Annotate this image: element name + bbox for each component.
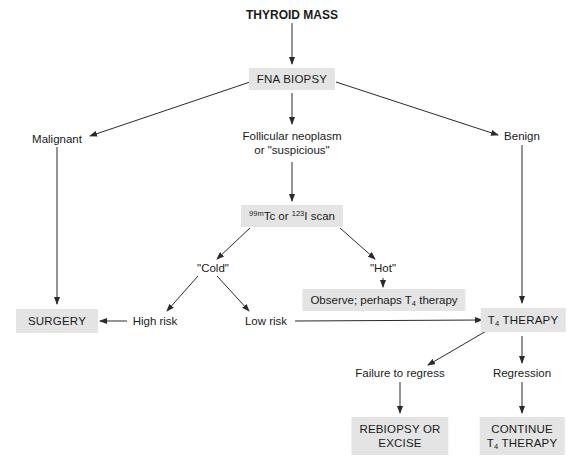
regression-label: Regression [493,366,551,380]
surgery-box: SURGERY [16,309,98,333]
rebiopsy-line2: EXCISE [359,436,440,450]
scan-isotope1: Tc or [264,210,292,222]
rebiopsy-excise-box: REBIOPSY OR EXCISE [351,417,448,455]
edge-scan-to-hot [340,228,375,259]
t4-therapy-box: T4 THERAPY [481,308,566,332]
t4-text-post: THERAPY [499,314,558,326]
high-risk-label: High risk [133,314,178,328]
continue-line1: CONTINUE [487,422,558,436]
follicular-line1: Follicular neoplasm [242,129,341,143]
continue-t4-post: THERAPY [498,437,557,449]
benign-label: Benign [504,129,540,143]
scan-box: 99mTc or 123I scan [241,205,343,227]
observe-box: Observe; perhaps T4 therapy [302,289,465,311]
scan-isotope1-mass: 99m [249,209,264,218]
malignant-label: Malignant [32,132,82,146]
edge-fna-to-benign [336,82,498,135]
rebiopsy-line1: REBIOPSY OR [359,422,440,436]
cold-label: "Cold" [197,261,229,275]
continue-line2: T4 THERAPY [487,436,558,450]
edge-cold-to-lowrisk [217,276,249,311]
scan-isotope2-mass: 123 [292,209,305,218]
observe-text-post: therapy [416,294,458,306]
hot-label: "Hot" [370,261,396,275]
failure-to-regress-label: Failure to regress [355,366,444,380]
edge-fna-to-malignant [90,82,250,136]
thyroid-mass-title: THYROID MASS [246,8,338,22]
edge-cold-to-highrisk [167,276,198,311]
follicular-label: Follicular neoplasm or "suspicious" [242,129,341,157]
edge-t4-to-failure [428,330,488,365]
edge-scan-to-cold [217,228,250,259]
follicular-line2: or "suspicious" [242,143,341,157]
observe-text-pre: Observe; perhaps T [310,294,411,306]
fna-biopsy-box: FNA BIOPSY [249,68,335,90]
edge-lowrisk-to-t4 [295,320,482,321]
continue-t4-box: CONTINUE T4 THERAPY [480,417,565,455]
low-risk-label: Low risk [245,314,287,328]
scan-isotope2: I scan [304,210,335,222]
